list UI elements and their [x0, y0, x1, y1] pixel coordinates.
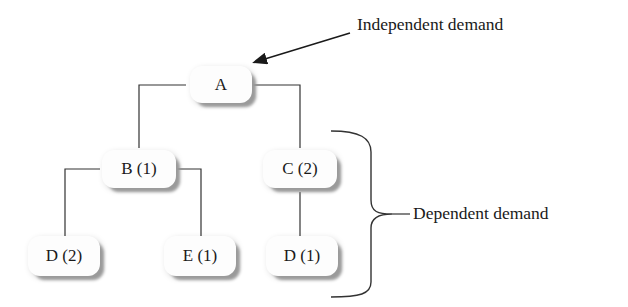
- node-d1: D (1): [266, 236, 338, 276]
- node-a: A: [190, 66, 252, 103]
- independent-demand-label: Independent demand: [357, 14, 503, 35]
- node-b-label: B (1): [121, 159, 156, 179]
- node-e-label: E (1): [183, 246, 217, 266]
- node-a-label: A: [215, 75, 227, 95]
- node-e: E (1): [164, 236, 236, 276]
- node-d1-label: D (1): [284, 246, 320, 266]
- node-c-label: C (2): [282, 159, 317, 179]
- node-d2-label: D (2): [46, 246, 82, 266]
- node-c: C (2): [263, 150, 337, 188]
- dependent-demand-label: Dependent demand: [413, 203, 549, 224]
- node-d2: D (2): [28, 236, 100, 276]
- node-b: B (1): [102, 150, 176, 188]
